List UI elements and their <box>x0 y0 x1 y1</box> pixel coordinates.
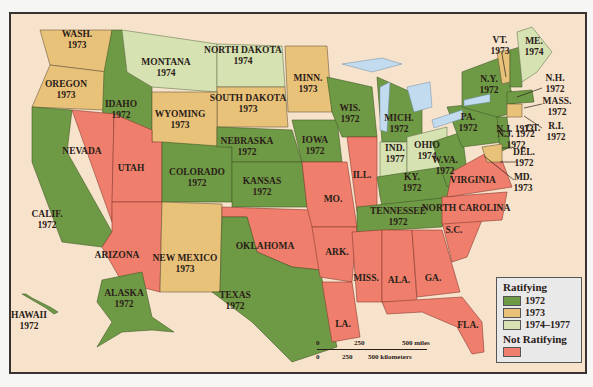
legend-ratifying-title: Ratifying <box>503 281 575 294</box>
state-label: GA. <box>425 273 442 284</box>
state-label: TENNESSEE1972 <box>370 206 426 228</box>
state-label: IND.1977 <box>385 143 405 165</box>
state-label: ME.1974 <box>525 36 544 58</box>
scale-bar: 0 250 500 miles 0 250 500 kilometers <box>316 339 466 367</box>
state-label: IDAHO1972 <box>105 99 137 121</box>
state-label: CALIF.1972 <box>31 209 62 231</box>
state-label: IOWA1972 <box>302 135 328 157</box>
swatch-not-ratifying <box>503 347 521 357</box>
state-label: LA. <box>335 319 351 330</box>
state-label: VT.1973 <box>491 35 510 57</box>
state-label: NORTH CAROLINA <box>422 203 511 214</box>
state-label: ARK. <box>325 247 349 258</box>
state-label: WYOMING1973 <box>155 109 206 131</box>
state-label: R.I.1972 <box>547 121 566 143</box>
swatch-1972 <box>503 296 521 306</box>
state-label: KANSAS1972 <box>243 176 282 198</box>
state-label: COLORADO1972 <box>169 167 225 189</box>
state-label: KY.1972 <box>403 172 422 194</box>
state-label: PA.1972 <box>459 112 478 134</box>
legend-item-1974-1977: 1974–1977 <box>503 319 575 330</box>
state-label: ARIZONA <box>95 250 140 261</box>
legend-item-not-ratifying <box>503 347 575 357</box>
state-label: N.H.1972 <box>546 73 565 95</box>
swatch-1973 <box>503 308 521 318</box>
state-label: TEXAS1972 <box>219 290 251 312</box>
state-label: MICH.1972 <box>384 113 413 135</box>
legend: Ratifying 1972 1973 1974–1977 Not Ratify… <box>496 277 582 363</box>
legend-not-ratifying-title: Not Ratifying <box>503 333 575 346</box>
map-frame: WASH.1973OREGON1973IDAHO1972MONTANA1974N… <box>9 12 587 374</box>
state-label: FLA. <box>457 320 478 331</box>
state-label: OKLAHOMA <box>236 241 295 252</box>
state-label: S.C. <box>446 225 463 236</box>
state-label: HAWAII1972 <box>11 310 47 332</box>
state-label: NEBRASKA1972 <box>221 136 274 158</box>
state-label: WASH.1973 <box>62 29 92 51</box>
state-label: WIS.1972 <box>340 103 361 125</box>
state-label: ALA. <box>388 275 410 286</box>
state-label: MD.1973 <box>514 172 533 194</box>
state-label: MINN.1973 <box>294 73 323 95</box>
swatch-1974-1977 <box>503 320 521 330</box>
state-label: ALASKA1972 <box>104 288 144 310</box>
legend-item-1973: 1973 <box>503 307 575 318</box>
state-label: DEL.1972 <box>513 147 535 169</box>
state-label: SOUTH DAKOTA1973 <box>210 93 287 115</box>
state-label: MO. <box>324 194 343 205</box>
legend-item-1972: 1972 <box>503 295 575 306</box>
state-label: MONTANA1974 <box>141 57 190 79</box>
state-label: NORTH DAKOTA1974 <box>204 45 282 67</box>
state-label: OHIO1974 <box>414 140 440 162</box>
state-label: NEVADA <box>62 146 101 157</box>
state-label: ILL. <box>353 170 372 181</box>
state-label: UTAH <box>118 163 145 174</box>
state-label: NEW MEXICO1973 <box>152 253 217 275</box>
state-label: OREGON1973 <box>45 79 87 101</box>
state-label: MISS. <box>353 273 379 284</box>
state-label: N.Y.1972 <box>480 74 499 96</box>
state-label: MASS.1972 <box>543 96 572 118</box>
